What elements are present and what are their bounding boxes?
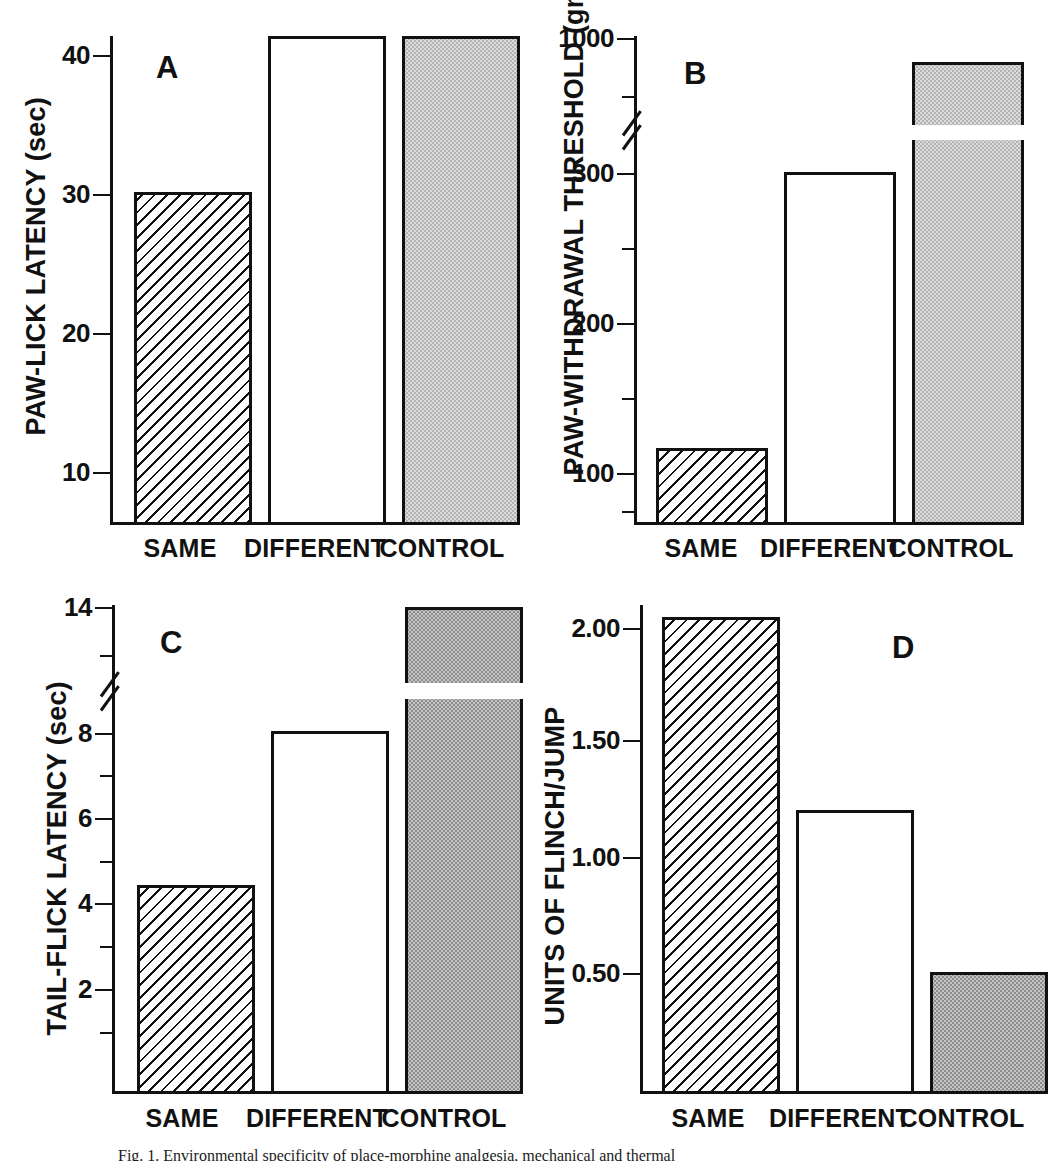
panel-a-y-axis bbox=[110, 36, 113, 525]
panel-d-category-different: DIFFERENT bbox=[766, 1104, 914, 1133]
panel-a-ticklabel-20: 20 bbox=[62, 318, 90, 349]
panel-a-category-different: DIFFERENT bbox=[240, 534, 390, 563]
panel-c-y-axis-title: TAIL-FLICK LATENCY (sec) bbox=[42, 706, 73, 1036]
panel-a-bar-same bbox=[134, 192, 252, 525]
panel-a-ticklabel-40: 40 bbox=[62, 40, 90, 71]
panel-c-tick-14 bbox=[95, 607, 112, 609]
panel-a-ticklabel-10: 10 bbox=[62, 457, 90, 488]
panel-d-letter: D bbox=[892, 630, 914, 666]
panel-b-tick-300 bbox=[617, 173, 634, 175]
panel-c-tick-6 bbox=[95, 818, 112, 820]
panel-c-ticklabel-6: 6 bbox=[78, 803, 92, 834]
panel-a-category-same: SAME bbox=[110, 534, 250, 563]
panel-c-ticklabel-8: 8 bbox=[78, 718, 92, 749]
panel-b-ticklabel-100: 100 bbox=[572, 458, 614, 489]
panel-d-plot-area: 2.00 1.50 1.00 0.50 bbox=[640, 605, 982, 1094]
panel-d-tick-100 bbox=[623, 857, 640, 859]
panel-d-tick-050 bbox=[623, 973, 640, 975]
panel-b-bar-control-upper bbox=[912, 62, 1024, 125]
panel-b-plot-area: 1000 300 200 100 bbox=[634, 36, 982, 525]
panel-a: PAW-LICK LATENCY (sec) 40 30 20 10 A SAM… bbox=[0, 0, 494, 580]
panel-b-axis-break bbox=[623, 114, 651, 148]
panel-c-tick-4 bbox=[95, 903, 112, 905]
figure-caption: Fig. 1. Environmental specificity of pla… bbox=[118, 1146, 908, 1161]
panel-c-category-same: SAME bbox=[112, 1104, 252, 1133]
panel-c-bar-different bbox=[271, 731, 389, 1094]
panel-d-ticklabel-050: 0.50 bbox=[571, 958, 620, 989]
panel-a-tick-20 bbox=[93, 333, 110, 335]
panel-d-tick-200 bbox=[623, 628, 640, 630]
panel-d: UNITS OF FLINCH/JUMP 2.00 1.50 1.00 0.50… bbox=[494, 580, 988, 1161]
panel-a-letter: A bbox=[156, 50, 178, 86]
panel-b-bar-same bbox=[656, 448, 768, 525]
panel-b-bar-different bbox=[784, 172, 896, 525]
panel-c-category-control: CONTROL bbox=[374, 1104, 514, 1133]
panel-b-ticklabel-1000: 1000 bbox=[558, 23, 614, 54]
panel-c-category-different: DIFFERENT bbox=[242, 1104, 392, 1133]
panel-b-tick-50 bbox=[622, 511, 634, 513]
panel-c-letter: C bbox=[160, 625, 182, 661]
panel-d-y-axis-title: UNITS OF FLINCH/JUMP bbox=[540, 716, 571, 1026]
panel-a-tick-30 bbox=[93, 194, 110, 196]
panel-b: PAW-WITHDRAWAL THRESHOLD (gm) 1000 300 2… bbox=[494, 0, 988, 580]
panel-c-tick-5 bbox=[100, 861, 112, 863]
panel-b-y-axis bbox=[634, 36, 637, 525]
panel-c-tick-2 bbox=[95, 989, 112, 991]
panel-c: TAIL-FLICK LATENCY (sec) 14 8 6 4 2 bbox=[0, 580, 494, 1161]
panel-d-ticklabel-100: 1.00 bbox=[571, 842, 620, 873]
panel-c-tick-7 bbox=[100, 775, 112, 777]
panel-b-ticklabel-200: 200 bbox=[572, 308, 614, 339]
panel-c-tick-8 bbox=[95, 733, 112, 735]
panel-b-bar-control-lower bbox=[912, 140, 1024, 525]
panel-c-plot-area: 14 8 6 4 2 bbox=[112, 605, 480, 1094]
panel-a-plot-area: 40 30 20 10 bbox=[110, 36, 478, 525]
panel-a-category-control: CONTROL bbox=[372, 534, 512, 563]
panel-b-y-axis-title: PAW-WITHDRAWAL THRESHOLD (gm) bbox=[559, 96, 590, 476]
panel-b-tick-150 bbox=[622, 398, 634, 400]
panel-c-tick-13 bbox=[100, 655, 112, 657]
panel-b-category-same: SAME bbox=[634, 534, 768, 563]
panel-c-tick-3 bbox=[100, 946, 112, 948]
panel-b-tick-250 bbox=[622, 248, 634, 250]
panel-b-tick-200 bbox=[617, 323, 634, 325]
panel-b-ticklabel-300: 300 bbox=[572, 158, 614, 189]
panel-c-ticklabel-14: 14 bbox=[64, 592, 92, 623]
panel-d-tick-150 bbox=[623, 740, 640, 742]
panel-a-y-axis-title: PAW-LICK LATENCY (sec) bbox=[21, 136, 52, 436]
panel-d-bar-control-d bbox=[930, 972, 1048, 1094]
panel-a-bar-different bbox=[268, 36, 386, 525]
panel-c-axis-break bbox=[101, 675, 129, 709]
panel-b-category-control: CONTROL bbox=[884, 534, 1018, 563]
panel-b-letter: B bbox=[684, 56, 706, 92]
panel-a-tick-40 bbox=[93, 55, 110, 57]
panel-c-tick-1 bbox=[100, 1032, 112, 1034]
panel-b-tick-minor-upper bbox=[622, 96, 634, 98]
panel-c-bar-same bbox=[137, 885, 255, 1094]
panel-a-tick-10 bbox=[93, 472, 110, 474]
panel-b-tick-1000 bbox=[617, 38, 634, 40]
panel-d-bar-same bbox=[662, 617, 780, 1094]
panel-d-ticklabel-200: 2.00 bbox=[571, 613, 620, 644]
panel-d-category-same: SAME bbox=[640, 1104, 776, 1133]
panel-c-ticklabel-4: 4 bbox=[78, 888, 92, 919]
panel-d-y-axis bbox=[640, 605, 643, 1094]
panel-d-category-control: CONTROL bbox=[894, 1104, 1030, 1133]
panel-a-ticklabel-30: 30 bbox=[62, 179, 90, 210]
panel-c-ticklabel-2: 2 bbox=[78, 974, 92, 1005]
panel-d-bar-different bbox=[796, 810, 914, 1094]
panel-d-ticklabel-150: 1.50 bbox=[571, 725, 620, 756]
panel-b-tick-100 bbox=[617, 473, 634, 475]
